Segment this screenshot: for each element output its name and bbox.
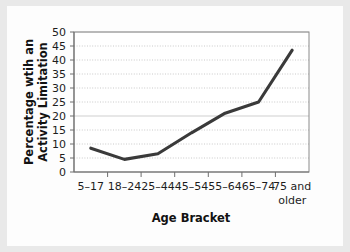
x-tick-label: 5–17 xyxy=(78,180,105,193)
x-tick-label: 45–54 xyxy=(175,180,209,193)
y-tick-label: 30 xyxy=(52,82,66,95)
x-tick-label: 18–24 xyxy=(108,180,142,193)
y-tick-label: 50 xyxy=(52,26,66,39)
x-tick-label-wrap: older xyxy=(278,194,307,207)
y-tick-label: 15 xyxy=(52,124,66,137)
x-tick-labels: 5–17 18–24 25–44 45–54 55–64 65–74 75 an… xyxy=(78,180,312,207)
y-axis-title-line2: Activity Limitation xyxy=(36,42,50,162)
y-axis-title-line1: Percentage wtih an xyxy=(22,39,36,165)
y-tick-marks xyxy=(70,32,74,172)
x-tick-label: 55–64 xyxy=(208,180,242,193)
x-tick-label: 75 and xyxy=(273,180,311,193)
y-tick-label: 5 xyxy=(59,152,66,165)
y-tick-label: 35 xyxy=(52,68,66,81)
y-tick-label: 20 xyxy=(52,110,66,123)
x-tick-marks xyxy=(108,172,276,177)
y-tick-label: 0 xyxy=(59,166,66,179)
x-tick-label: 25–44 xyxy=(141,180,175,193)
y-tick-label: 45 xyxy=(52,40,66,53)
y-tick-label: 25 xyxy=(52,96,66,109)
chart-svg: 50 45 40 35 30 25 20 15 10 5 0 xyxy=(7,6,343,246)
line-chart: 50 45 40 35 30 25 20 15 10 5 0 xyxy=(7,6,343,246)
x-tick-label: 65–74 xyxy=(242,180,276,193)
y-tick-label: 10 xyxy=(52,138,66,151)
figure-card: 50 45 40 35 30 25 20 15 10 5 0 xyxy=(7,6,343,246)
x-axis-title: Age Bracket xyxy=(152,211,231,225)
y-tick-labels: 50 45 40 35 30 25 20 15 10 5 0 xyxy=(52,26,66,179)
y-tick-label: 40 xyxy=(52,54,66,67)
